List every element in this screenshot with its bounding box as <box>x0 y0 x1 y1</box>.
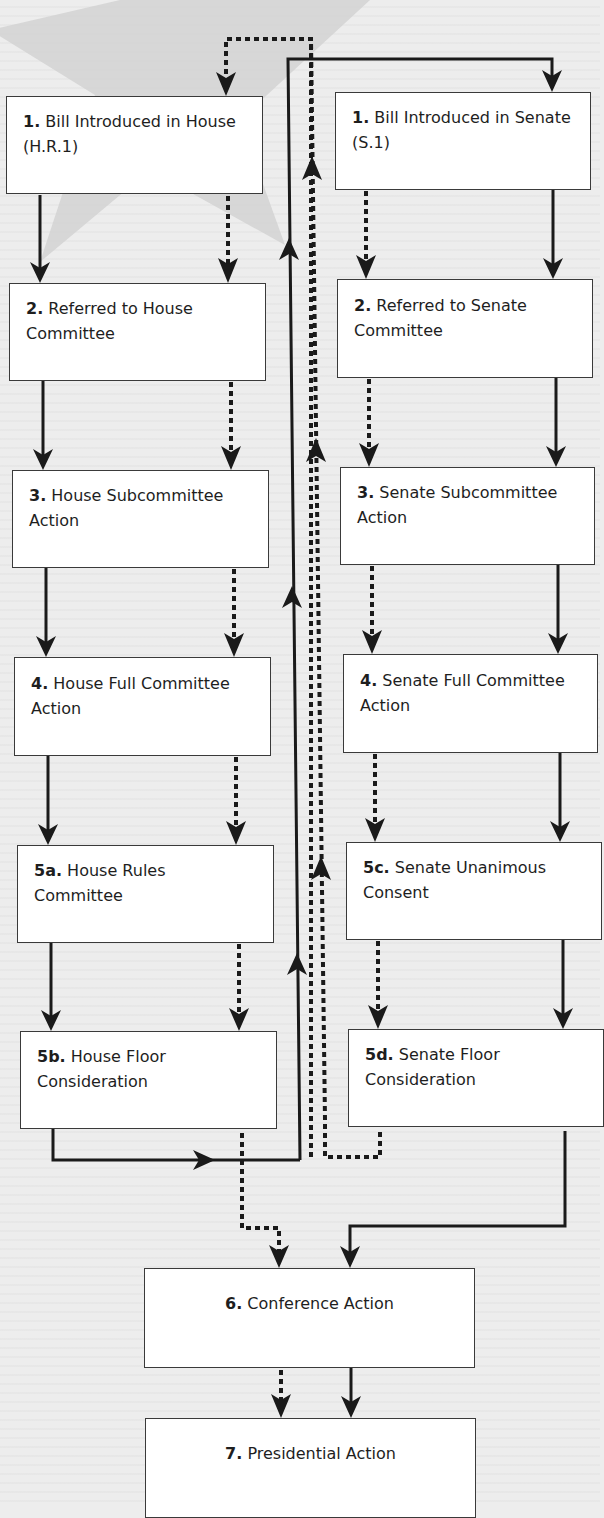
house-step-5a-box: 5a. House Rules Committee <box>17 845 274 943</box>
step-number: 1. <box>352 108 369 127</box>
house-step-4-box: 4. House Full Committee Action <box>14 657 271 756</box>
senate-step-4-box: 4. Senate Full Committee Action <box>343 654 598 753</box>
step-number: 7. <box>225 1444 242 1463</box>
step-label: House Subcommittee Action <box>29 486 223 530</box>
house-solid-arrows <box>30 59 562 1170</box>
house-step-5b-box: 5b. House Floor Consideration <box>20 1031 277 1129</box>
step-label: House Full Committee Action <box>31 674 230 718</box>
senate-step-1-box: 1. Bill Introduced in Senate (S.1) <box>335 92 591 190</box>
step-number: 2. <box>26 299 43 318</box>
step-number: 3. <box>357 483 374 502</box>
step-label: Bill Introduced in Senate (S.1) <box>352 108 571 152</box>
step-number: 2. <box>354 296 371 315</box>
step-number: 5b. <box>37 1047 66 1066</box>
step-label: Senate Full Committee Action <box>360 671 565 715</box>
step-label: Referred to House Committee <box>26 299 193 343</box>
conference-action-box: 6. Conference Action <box>144 1268 475 1368</box>
step-label: Referred to Senate Committee <box>354 296 527 340</box>
house-step-2-box: 2. Referred to House Committee <box>9 283 266 381</box>
step-number: 5c. <box>363 858 390 877</box>
presidential-action-box: 7. Presidential Action <box>145 1418 476 1518</box>
step-number: 5a. <box>34 861 62 880</box>
senate-step-3-box: 3. Senate Subcommittee Action <box>340 467 595 565</box>
senate-step-2-box: 2. Referred to Senate Committee <box>337 279 593 378</box>
house-step-3-box: 3. House Subcommittee Action <box>12 470 269 568</box>
step-number: 4. <box>31 674 48 693</box>
senate-step-5d-box: 5d. Senate Floor Consideration <box>348 1029 604 1127</box>
step-number: 3. <box>29 486 46 505</box>
house-step-1-box: 1. Bill Introduced in House (H.R.1) <box>6 96 263 194</box>
step-number: 4. <box>360 671 377 690</box>
step-label: Conference Action <box>247 1294 394 1313</box>
step-label: Senate Subcommittee Action <box>357 483 557 527</box>
step-label: Presidential Action <box>247 1444 396 1463</box>
senate-step-5c-box: 5c. Senate Unanimous Consent <box>346 842 602 940</box>
step-label: Bill Introduced in House (H.R.1) <box>23 112 236 156</box>
step-label: Senate Unanimous Consent <box>363 858 546 902</box>
step-number: 6. <box>225 1294 242 1313</box>
step-number: 1. <box>23 112 40 131</box>
step-number: 5d. <box>365 1045 394 1064</box>
